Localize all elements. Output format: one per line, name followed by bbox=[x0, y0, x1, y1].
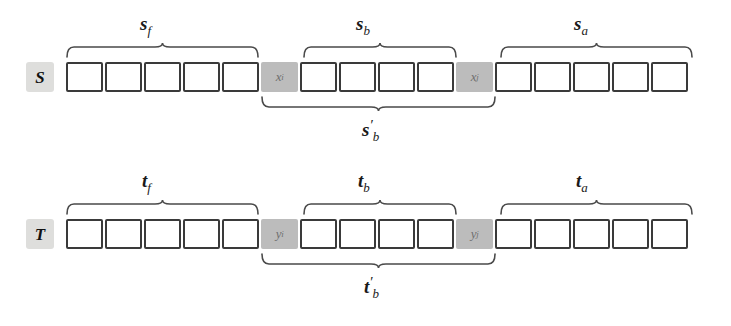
label-s-extended-sub: b bbox=[373, 129, 380, 144]
label-t-extended-block: t′b bbox=[364, 277, 379, 296]
cell-t-8 bbox=[378, 219, 415, 249]
cell-t-6 bbox=[300, 219, 337, 249]
row-label-s-text: S bbox=[35, 69, 44, 86]
brace-t-after bbox=[500, 199, 693, 215]
label-t-block-sub: b bbox=[363, 180, 370, 195]
label-t-after: ta bbox=[576, 171, 588, 190]
cell-s-1 bbox=[105, 62, 142, 92]
cell-t-1 bbox=[105, 219, 142, 249]
label-s-block-sub: b bbox=[363, 23, 370, 38]
cell-s-2 bbox=[144, 62, 181, 92]
cell-t-2 bbox=[144, 219, 181, 249]
brace-t-block bbox=[303, 199, 457, 215]
cell-t-3 bbox=[183, 219, 220, 249]
cell-s-5-shaded-xi: xi bbox=[261, 62, 298, 92]
row-label-t: T bbox=[26, 219, 54, 249]
cell-strip-t: yi yj bbox=[66, 219, 688, 249]
cell-t-11 bbox=[495, 219, 532, 249]
cell-strip-s: xi xj bbox=[66, 62, 688, 92]
cell-t-13 bbox=[573, 219, 610, 249]
sequence-row-t: T yi yj bbox=[0, 157, 731, 320]
cell-s-15 bbox=[651, 62, 688, 92]
cell-s-13 bbox=[573, 62, 610, 92]
label-t-front: tf bbox=[142, 171, 151, 190]
cell-t-0 bbox=[66, 219, 103, 249]
label-s-block: sb bbox=[356, 14, 370, 33]
label-t-block: tb bbox=[358, 171, 370, 190]
cell-s-8 bbox=[378, 62, 415, 92]
label-s-front-sub: f bbox=[147, 23, 151, 38]
cell-t-5-sub: i bbox=[281, 229, 283, 239]
cell-t-4 bbox=[222, 219, 259, 249]
cell-s-4 bbox=[222, 62, 259, 92]
cell-t-9 bbox=[417, 219, 454, 249]
cell-s-12 bbox=[534, 62, 571, 92]
alignment-decomposition-figure: S xi xj bbox=[0, 0, 731, 326]
row-label-s: S bbox=[26, 62, 54, 92]
cell-t-15 bbox=[651, 219, 688, 249]
label-t-front-sub: f bbox=[147, 180, 151, 195]
label-s-after-sub: a bbox=[581, 23, 588, 38]
cell-s-7 bbox=[339, 62, 376, 92]
brace-s-after bbox=[500, 42, 693, 58]
cell-s-3 bbox=[183, 62, 220, 92]
cell-s-14 bbox=[612, 62, 649, 92]
brace-s-front bbox=[66, 42, 259, 58]
cell-t-10-shaded-yj: yj bbox=[456, 219, 493, 249]
cell-t-14 bbox=[612, 219, 649, 249]
cell-t-12 bbox=[534, 219, 571, 249]
cell-s-6 bbox=[300, 62, 337, 92]
label-s-front: sf bbox=[140, 14, 151, 33]
label-s-after: sa bbox=[574, 14, 588, 33]
cell-s-10-shaded-xj: xj bbox=[456, 62, 493, 92]
cell-s-10-sub: j bbox=[476, 72, 478, 82]
cell-s-11 bbox=[495, 62, 532, 92]
cell-t-7 bbox=[339, 219, 376, 249]
label-t-after-sub: a bbox=[581, 180, 588, 195]
label-t-extended-sub: b bbox=[373, 286, 380, 301]
cell-t-5-shaded-yi: yi bbox=[261, 219, 298, 249]
sequence-row-s: S xi xj bbox=[0, 0, 731, 163]
brace-t-extended-block bbox=[261, 253, 496, 269]
brace-s-block bbox=[303, 42, 457, 58]
brace-s-extended-block bbox=[261, 96, 496, 112]
cell-s-0 bbox=[66, 62, 103, 92]
cell-t-10-sub: j bbox=[476, 229, 478, 239]
row-label-t-text: T bbox=[35, 226, 45, 243]
label-s-extended-block: s′b bbox=[362, 120, 379, 139]
cell-s-5-sub: i bbox=[281, 72, 283, 82]
cell-s-9 bbox=[417, 62, 454, 92]
brace-t-front bbox=[66, 199, 259, 215]
